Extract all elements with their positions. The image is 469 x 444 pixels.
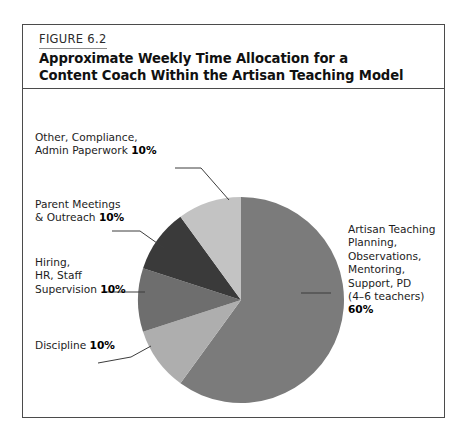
figure-number-label: FIGURE 6.2 bbox=[39, 32, 107, 49]
leader-line-other bbox=[175, 168, 229, 200]
label-hiring-line-2: HR, Staff bbox=[35, 269, 82, 281]
label-artisan-line-1: Artisan Teaching bbox=[348, 223, 435, 235]
label-parent-percent: 10% bbox=[99, 211, 124, 223]
label-artisan-percent: 60% bbox=[348, 303, 373, 315]
label-artisan-line-3: Observations, bbox=[348, 250, 421, 262]
label-hiring-percent: 10% bbox=[100, 283, 125, 295]
label-other-line-2: Admin Paperwork bbox=[35, 144, 131, 156]
label-hiring-line-3: Supervision bbox=[35, 283, 100, 295]
label-discipline-line-1: Discipline bbox=[35, 339, 90, 351]
label-hiring-line-1: Hiring, bbox=[35, 256, 70, 268]
figure-title: Approximate Weekly Time Allocation for a… bbox=[39, 51, 429, 84]
label-other-percent: 10% bbox=[131, 144, 156, 156]
figure-container: FIGURE 6.2 Approximate Weekly Time Alloc… bbox=[22, 24, 445, 418]
label-parent-line-1: Parent Meetings bbox=[35, 198, 121, 210]
label-other-compliance: Other, Compliance, Admin Paperwork 10% bbox=[35, 131, 185, 158]
label-artisan-line-4: Mentoring, bbox=[348, 263, 405, 275]
label-parent-meetings: Parent Meetings & Outreach 10% bbox=[35, 198, 165, 225]
label-parent-line-2: & Outreach bbox=[35, 211, 99, 223]
pie-chart-area: Other, Compliance, Admin Paperwork 10% P… bbox=[23, 89, 444, 417]
figure-title-line-1: Approximate Weekly Time Allocation for a bbox=[39, 51, 429, 68]
label-artisan-line-5: Support, PD bbox=[348, 277, 411, 289]
label-hiring-hr: Hiring, HR, Staff Supervision 10% bbox=[35, 256, 145, 296]
label-artisan-teaching: Artisan Teaching Planning, Observations,… bbox=[348, 223, 448, 317]
figure-title-line-2: Content Coach Within the Artisan Teachin… bbox=[39, 68, 429, 85]
label-other-line-1: Other, Compliance, bbox=[35, 131, 138, 143]
figure-header: FIGURE 6.2 Approximate Weekly Time Alloc… bbox=[23, 25, 444, 89]
label-discipline-percent: 10% bbox=[90, 339, 115, 351]
label-discipline: Discipline 10% bbox=[35, 339, 165, 352]
label-artisan-line-2: Planning, bbox=[348, 236, 397, 248]
label-artisan-line-6: (4–6 teachers) bbox=[348, 290, 425, 302]
